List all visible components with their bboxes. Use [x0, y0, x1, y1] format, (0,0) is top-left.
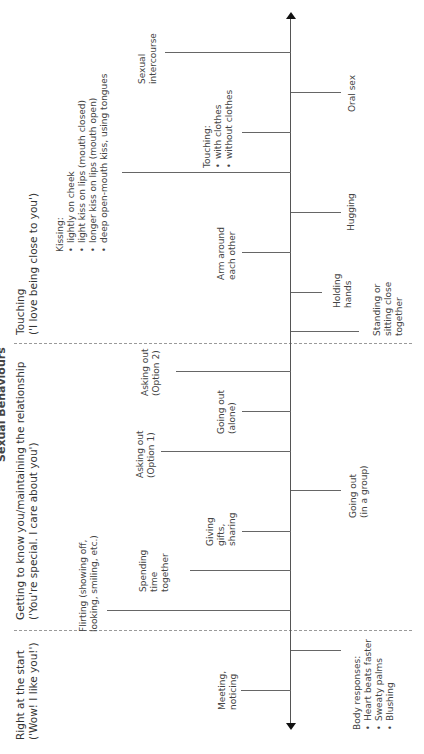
branch-standing-close: [291, 331, 359, 332]
label-spending: Spendingtimetogether: [138, 550, 171, 592]
label-standing-close: Standing orsitting closetogether: [372, 282, 405, 336]
branch-meeting: [241, 690, 291, 691]
branch-touching-clothes: [242, 132, 291, 133]
branch-kissing: [122, 172, 291, 173]
arrow-down-icon: [286, 723, 296, 730]
label-hugging: Hugging: [346, 193, 357, 231]
arrow-up-icon: [286, 12, 296, 19]
label-oral-sex: Oral sex: [347, 75, 358, 112]
label-flirting: Flirting (showing off,looking, smiling, …: [78, 535, 100, 632]
label-going-out-group: Going out(in a group): [348, 465, 370, 518]
branch-oral-sex: [291, 92, 341, 93]
stage-separator-start: [14, 630, 412, 631]
stage-heading-touching: Touching('I love being close to you'): [14, 193, 40, 335]
label-body-responses: Body responses: Heart beats faster Sweat…: [352, 639, 396, 730]
branch-spending: [190, 570, 291, 571]
branch-flirting: [107, 610, 291, 611]
stage-heading-getting-to-know: Getting to know you/maintaining the rela…: [14, 362, 40, 620]
label-holding-hands: Holdinghands: [332, 274, 354, 308]
branch-body-responses: [291, 650, 341, 651]
branch-sexual-intercourse: [165, 52, 291, 53]
label-giving: Givinggifts,sharing: [205, 512, 238, 546]
stage-separator-touching: [14, 343, 412, 344]
label-meeting: Meeting,noticing: [217, 671, 239, 710]
label-asking-out-2: Asking out(Option 2): [140, 348, 162, 396]
label-kissing: Kissing: lightly on cheek light kiss on …: [55, 73, 110, 252]
branch-giving: [242, 531, 291, 532]
branch-asking-out-2: [176, 371, 291, 372]
label-arm-around: Arm aroundeach other: [216, 227, 238, 280]
label-going-out-alone: Going out(alone): [216, 390, 238, 434]
label-sexual-intercourse: Sexualintercourse: [137, 33, 159, 84]
branch-holding-hands: [291, 292, 322, 293]
branch-asking-out-1: [161, 451, 291, 452]
label-touching-clothes: Touching: with clothes without clothes: [202, 90, 235, 168]
branch-going-out-group: [291, 490, 341, 491]
branch-hugging: [291, 212, 341, 213]
diagram-title: Sexual Behaviours: [0, 347, 7, 462]
branch-arm-around: [242, 252, 291, 253]
label-asking-out-1: Asking out(Option 1): [135, 430, 157, 478]
stage-heading-start: Right at the start('Wow! I like you!'): [14, 642, 40, 740]
branch-going-out-alone: [242, 411, 291, 412]
